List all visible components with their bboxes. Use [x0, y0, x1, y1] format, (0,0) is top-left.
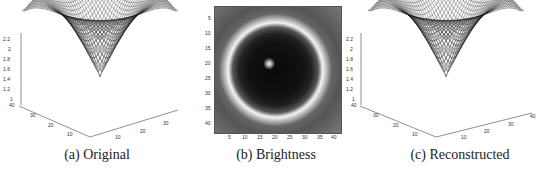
z-tick: 2 [350, 46, 353, 52]
x-tick: 20 [484, 128, 490, 134]
x-tick: 25 [287, 134, 293, 140]
z-tick: 1.8 [3, 56, 10, 62]
x-tick: 20 [272, 134, 278, 140]
z-tick: 1.2 [346, 86, 353, 92]
x-tick: 30 [508, 121, 514, 127]
x-tick: 30 [163, 120, 169, 126]
y-tick: 15 [205, 45, 211, 51]
caption-reconstructed: (c) Reconstructed [410, 147, 509, 163]
x-tick: 40 [331, 134, 337, 140]
y-tick: 25 [205, 75, 211, 81]
y-tick: 20 [205, 60, 211, 66]
brightness-image [214, 6, 342, 134]
panel-reconstructed: 2.2 2 1.8 1.6 1.4 1.2 1 40 30 20 10 10 2… [360, 0, 544, 140]
y-tick: 30 [30, 112, 36, 118]
y-tick: 40 [9, 102, 15, 108]
y-tick: 40 [205, 120, 211, 126]
x-tick: 10 [115, 134, 121, 140]
z-tick: 1.6 [346, 66, 353, 72]
y-tick: 40 [351, 102, 357, 108]
y-tick: 20 [393, 122, 399, 128]
z-tick: 1.8 [346, 56, 353, 62]
mesh-surface-reconstructed [360, 0, 544, 140]
z-tick: 1.2 [3, 86, 10, 92]
caption-original: (a) Original [64, 147, 130, 163]
y-tick: 30 [205, 90, 211, 96]
y-tick: 10 [412, 131, 418, 137]
x-tick: 20 [140, 128, 146, 134]
z-tick: 2 [8, 46, 11, 52]
y-tick: 30 [373, 112, 379, 118]
mesh-surface-original [0, 0, 180, 140]
y-tick: 35 [205, 105, 211, 111]
x-tick: 35 [317, 134, 323, 140]
x-tick: 30 [302, 134, 308, 140]
z-tick: 1.4 [3, 76, 10, 82]
y-tick: 5 [208, 15, 211, 21]
panel-original: 2.2 2 1.8 1.6 1.4 1.2 1 40 30 20 10 10 2… [0, 0, 180, 140]
x-tick: 40 [530, 113, 536, 119]
z-tick: 2.2 [3, 36, 10, 42]
x-tick: 10 [242, 134, 248, 140]
x-tick: 5 [228, 134, 231, 140]
x-tick: 15 [257, 134, 263, 140]
y-tick: 20 [48, 122, 54, 128]
y-tick: 10 [67, 131, 73, 137]
y-tick: 10 [205, 30, 211, 36]
x-tick: 10 [461, 134, 467, 140]
z-tick: 1.4 [346, 76, 353, 82]
caption-brightness: (b) Brightness [236, 147, 316, 163]
z-tick: 2.2 [346, 36, 353, 42]
panel-brightness: 5 10 15 20 25 30 35 40 5 10 15 20 25 30 … [195, 0, 355, 145]
z-tick: 1.6 [3, 66, 10, 72]
